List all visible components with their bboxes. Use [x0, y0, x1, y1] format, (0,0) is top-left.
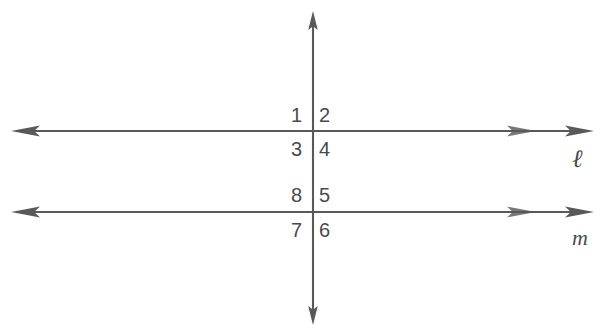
angle-label-7: 7: [291, 220, 302, 240]
angle-label-4: 4: [319, 139, 330, 159]
line-l: [11, 126, 594, 137]
angle-label-2: 2: [319, 105, 330, 125]
angle-label-8: 8: [291, 185, 302, 205]
line-label-m: m: [572, 227, 588, 249]
geometry-canvas: [0, 0, 603, 334]
angle-label-5: 5: [319, 185, 330, 205]
angle-label-6: 6: [319, 220, 330, 240]
angle-label-3: 3: [291, 139, 302, 159]
angle-label-1: 1: [291, 105, 302, 125]
line-m: [11, 207, 594, 218]
geometry-diagram: 1 2 3 4 8 5 7 6 ℓ m: [0, 0, 603, 334]
line-label-l: ℓ: [572, 146, 582, 171]
transversal-line: [308, 11, 318, 325]
